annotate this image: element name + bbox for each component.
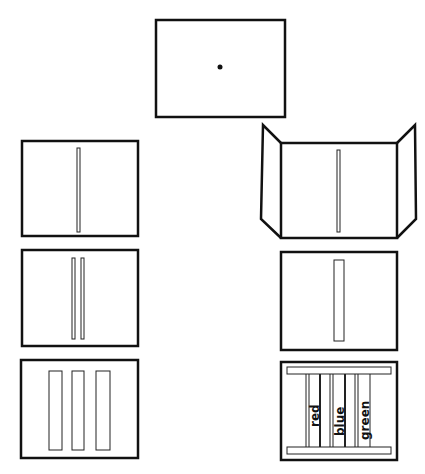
- label-red: red: [308, 404, 322, 427]
- left-panel-single-slit: [22, 141, 138, 236]
- left-panel-three-bars: [21, 360, 138, 458]
- right-panel-triptych: [261, 125, 416, 238]
- right-panel-single-bar: [281, 252, 397, 350]
- diagram-canvas: red blue green: [0, 0, 425, 474]
- top-screen-panel: [156, 20, 285, 117]
- left-panel-double-slit: [22, 250, 138, 346]
- fixation-dot-icon: [218, 65, 223, 70]
- right-panel-color-bars: red blue green: [281, 362, 397, 460]
- label-blue: blue: [333, 407, 347, 436]
- label-green: green: [358, 401, 372, 440]
